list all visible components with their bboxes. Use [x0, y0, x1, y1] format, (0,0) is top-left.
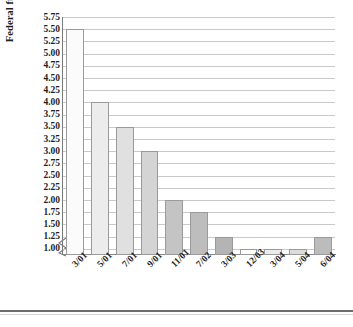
y-tick-label: 4.25: [30, 86, 60, 96]
y-tick-label: 4.00: [30, 98, 60, 108]
y-tick-label: 3.75: [30, 110, 60, 120]
y-tick-label: 3.50: [30, 122, 60, 132]
bar: [141, 151, 159, 255]
y-tick-label: 1.50: [30, 220, 60, 230]
y-axis-title: Federal funds rate: [4, 0, 24, 80]
y-axis-tick-labels: 5.755.505.255.004.754.504.254.003.753.50…: [28, 17, 60, 255]
y-tick-label: 2.25: [30, 183, 60, 193]
chart-figure: Federal funds rate 5.755.505.255.004.754…: [0, 0, 353, 327]
y-tick-label: 4.50: [30, 74, 60, 84]
y-tick-label: 2.00: [30, 196, 60, 206]
y-tick-label: 3.00: [30, 147, 60, 157]
footer-rule-shadow: [0, 314, 353, 315]
y-tick-label: 5.50: [30, 25, 60, 35]
bar: [91, 102, 109, 255]
y-tick-label: 5.75: [30, 13, 60, 23]
y-tick-label: 1.75: [30, 208, 60, 218]
x-axis-tick-labels: 3/015/017/019/0111/017/023/0312/033/045/…: [63, 256, 335, 302]
y-tick-label: 2.75: [30, 159, 60, 169]
y-tick-label: 4.75: [30, 61, 60, 71]
y-tick-label: 2.50: [30, 171, 60, 181]
y-tick-label: 5.25: [30, 37, 60, 47]
y-tick-label: 3.25: [30, 135, 60, 145]
bar: [165, 200, 183, 255]
bar: [116, 127, 134, 255]
bar: [190, 212, 208, 255]
bar-series: [63, 17, 335, 255]
footer-rule: [0, 310, 353, 312]
y-tick-label: 5.00: [30, 49, 60, 59]
bar: [66, 29, 84, 255]
